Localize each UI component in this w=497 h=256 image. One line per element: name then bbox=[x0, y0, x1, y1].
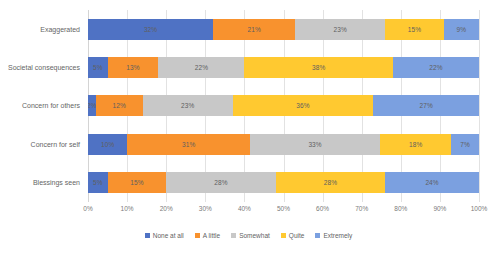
x-axis-tick: 0% bbox=[83, 205, 92, 212]
bar-segment-label: 31% bbox=[182, 141, 195, 148]
bar-segment-label: 10% bbox=[101, 141, 114, 148]
bar-segment[interactable]: 9% bbox=[444, 19, 479, 40]
legend-swatch-icon bbox=[315, 233, 320, 238]
bar-row: 32%21%23%15%9% bbox=[88, 19, 479, 40]
x-axis-tick: 70% bbox=[355, 205, 368, 212]
bar-row: 5%13%22%38%22% bbox=[88, 57, 479, 78]
legend-label: A little bbox=[203, 232, 220, 239]
x-axis-tick: 30% bbox=[199, 205, 212, 212]
bar-segment[interactable]: 33% bbox=[250, 134, 380, 155]
category-label: Concern for others bbox=[0, 95, 84, 116]
bar-segment-label: 38% bbox=[312, 64, 325, 71]
bar-segment-label: 28% bbox=[324, 179, 337, 186]
legend-item[interactable]: Quite bbox=[281, 232, 305, 239]
bar-segment[interactable]: 15% bbox=[385, 19, 444, 40]
bar-row: 10%31%33%18%7% bbox=[88, 134, 479, 155]
bar-segment-label: 15% bbox=[408, 26, 421, 33]
bar-segment[interactable]: 28% bbox=[166, 172, 275, 193]
bar-segment[interactable]: 24% bbox=[385, 172, 479, 193]
x-axis-tick: 90% bbox=[433, 205, 446, 212]
value-axis: 0%10%20%30%40%50%60%70%80%90%100% bbox=[88, 203, 479, 217]
legend-item[interactable]: Extremely bbox=[315, 232, 352, 239]
bar-segment-label: 13% bbox=[126, 64, 139, 71]
category-label: Blessings seen bbox=[0, 172, 84, 193]
bar-segment-label: 22% bbox=[195, 64, 208, 71]
bar-segment-label: 18% bbox=[409, 141, 422, 148]
x-axis-tick: 60% bbox=[316, 205, 329, 212]
bar-segment[interactable]: 27% bbox=[373, 95, 479, 116]
bar-segment[interactable]: 21% bbox=[213, 19, 295, 40]
bar-segment[interactable]: 18% bbox=[380, 134, 451, 155]
bar-segment-label: 9% bbox=[457, 26, 467, 33]
bar-segment-label: 27% bbox=[420, 102, 433, 109]
bar-segment-label: 5% bbox=[93, 64, 103, 71]
bar-segment-label: 24% bbox=[425, 179, 438, 186]
bar-row: 5%15%28%28%24% bbox=[88, 172, 479, 193]
legend-item[interactable]: Somewhat bbox=[231, 232, 270, 239]
bar-segment[interactable]: 28% bbox=[276, 172, 385, 193]
bar-segment[interactable]: 13% bbox=[108, 57, 159, 78]
bar-segment-label: 7% bbox=[460, 141, 470, 148]
bar-segment-label: 28% bbox=[214, 179, 227, 186]
bar-segment[interactable]: 10% bbox=[88, 134, 127, 155]
bar-segment-label: 15% bbox=[130, 179, 143, 186]
x-axis-tick: 80% bbox=[394, 205, 407, 212]
legend-swatch-icon bbox=[195, 233, 200, 238]
bar-series-container: 32%21%23%15%9%5%13%22%38%22%2%12%23%36%2… bbox=[88, 10, 479, 202]
bar-segment-label: 5% bbox=[93, 179, 103, 186]
bar-segment-label: 23% bbox=[334, 26, 347, 33]
bar-segment-label: 23% bbox=[181, 102, 194, 109]
legend-swatch-icon bbox=[145, 233, 150, 238]
x-axis-tick: 100% bbox=[471, 205, 488, 212]
plot-area: 32%21%23%15%9%5%13%22%38%22%2%12%23%36%2… bbox=[88, 10, 479, 202]
bar-segment-label: 36% bbox=[296, 102, 309, 109]
category-label: Concern for self bbox=[0, 134, 84, 155]
bar-segment[interactable]: 15% bbox=[108, 172, 167, 193]
bar-segment[interactable]: 31% bbox=[127, 134, 249, 155]
bar-segment-label: 2% bbox=[88, 102, 96, 109]
bar-segment[interactable]: 5% bbox=[88, 57, 108, 78]
legend-label: Somewhat bbox=[239, 232, 270, 239]
x-axis-tick: 50% bbox=[277, 205, 290, 212]
bar-segment-label: 33% bbox=[308, 141, 321, 148]
legend-swatch-icon bbox=[281, 233, 286, 238]
bar-segment[interactable]: 32% bbox=[88, 19, 213, 40]
bar-segment[interactable]: 38% bbox=[244, 57, 393, 78]
stacked-bar-chart: ExaggeratedSocietal consequencesConcern … bbox=[0, 0, 497, 256]
bar-segment-label: 32% bbox=[144, 26, 157, 33]
category-axis: ExaggeratedSocietal consequencesConcern … bbox=[0, 10, 84, 202]
legend-swatch-icon bbox=[231, 233, 236, 238]
bar-segment-label: 21% bbox=[248, 26, 261, 33]
bar-segment[interactable]: 23% bbox=[143, 95, 233, 116]
x-axis-tick: 40% bbox=[238, 205, 251, 212]
bar-segment[interactable]: 36% bbox=[233, 95, 374, 116]
legend: None at allA littleSomewhatQuiteExtremel… bbox=[0, 232, 497, 239]
legend-label: Extremely bbox=[323, 232, 352, 239]
bar-segment[interactable]: 22% bbox=[393, 57, 479, 78]
bar-segment[interactable]: 5% bbox=[88, 172, 108, 193]
legend-label: Quite bbox=[289, 232, 305, 239]
bar-row: 2%12%23%36%27% bbox=[88, 95, 479, 116]
category-label: Societal consequences bbox=[0, 57, 84, 78]
x-axis-tick: 10% bbox=[121, 205, 134, 212]
bar-segment[interactable]: 2% bbox=[88, 95, 96, 116]
bar-segment[interactable]: 22% bbox=[158, 57, 244, 78]
legend-label: None at all bbox=[153, 232, 184, 239]
bar-segment[interactable]: 23% bbox=[295, 19, 385, 40]
bar-segment-label: 12% bbox=[113, 102, 126, 109]
legend-item[interactable]: None at all bbox=[145, 232, 184, 239]
legend-item[interactable]: A little bbox=[195, 232, 220, 239]
x-axis-tick: 20% bbox=[160, 205, 173, 212]
bar-segment[interactable]: 7% bbox=[451, 134, 479, 155]
gridline bbox=[479, 10, 480, 202]
category-label: Exaggerated bbox=[0, 19, 84, 40]
bar-segment[interactable]: 12% bbox=[96, 95, 143, 116]
bar-segment-label: 22% bbox=[429, 64, 442, 71]
